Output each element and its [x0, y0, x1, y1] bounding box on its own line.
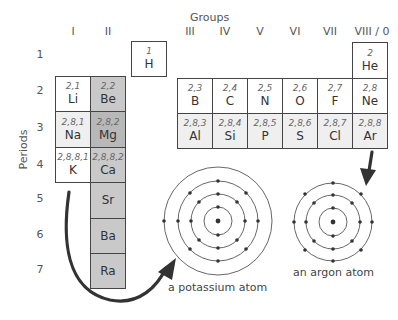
argon-electrons — [292, 181, 374, 263]
potassium-electrons — [162, 179, 260, 263]
arrow-k-to-potassium-icon — [66, 192, 176, 301]
arrow-ar-to-argon-icon — [360, 152, 376, 186]
potassium-atom-caption: a potassium atom — [168, 281, 267, 294]
argon-atom-caption: an argon atom — [293, 266, 374, 279]
